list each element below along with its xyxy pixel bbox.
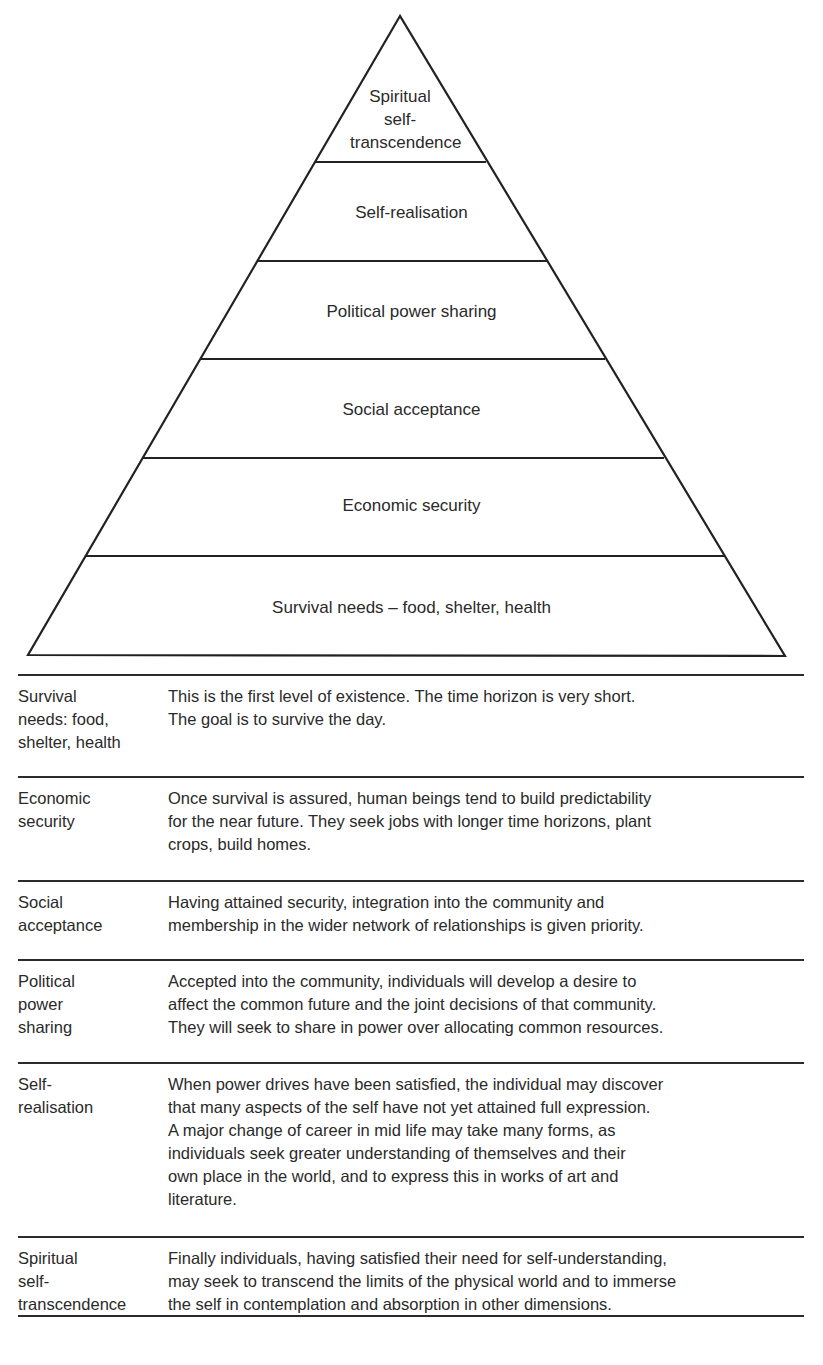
row-label: Self- realisation [18,1064,168,1236]
row-description: When power drives have been satisfied, t… [168,1064,804,1236]
needs-pyramid: Spiritual self- transcendence Self-reali… [0,0,823,670]
level-political-power-sharing: Political power sharing [0,300,823,323]
levels-description-table: Survival needs: food, shelter, health Th… [18,674,804,1317]
row-description: Having attained security, integration in… [168,882,804,959]
level-survival-needs: Survival needs – food, shelter, health [0,596,823,619]
level-economic-security: Economic security [0,494,823,517]
row-label: Political power sharing [18,961,168,1062]
table-row: Self- realisation When power drives have… [18,1064,804,1236]
row-description: Finally individuals, having satisfied th… [168,1238,804,1315]
table-row: Survival needs: food, shelter, health Th… [18,676,804,776]
row-description: Accepted into the community, individuals… [168,961,804,1062]
level-spiritual-self-transcendence: Spiritual self- transcendence [350,85,450,154]
table-row: Political power sharing Accepted into th… [18,961,804,1062]
row-label: Social acceptance [18,882,168,959]
row-description: Once survival is assured, human beings t… [168,778,804,880]
table-row: Spiritual self- transcendence Finally in… [18,1238,804,1315]
row-label: Economic security [18,778,168,880]
level-self-realisation: Self-realisation [0,201,823,224]
level-social-acceptance: Social acceptance [0,398,823,421]
table-row: Economic security Once survival is assur… [18,778,804,880]
row-label: Survival needs: food, shelter, health [18,676,168,776]
table-row: Social acceptance Having attained securi… [18,882,804,959]
row-label: Spiritual self- transcendence [18,1238,168,1315]
row-description: This is the first level of existence. Th… [168,676,804,776]
